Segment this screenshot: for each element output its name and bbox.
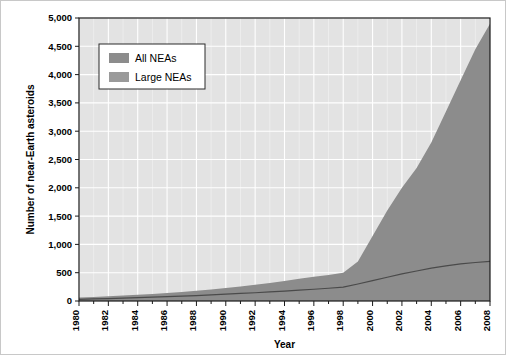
- y-tick-label: 1,500: [48, 211, 72, 222]
- legend-swatch: [109, 72, 129, 82]
- y-tick-label: 3,000: [48, 126, 72, 137]
- legend-label: All NEAs: [135, 52, 176, 64]
- x-tick-label: 1980: [70, 310, 81, 331]
- y-axis-ticks: 05001,0001,5002,0002,5003,0003,5004,0004…: [48, 12, 79, 306]
- x-tick-label: 1986: [158, 310, 169, 331]
- chart-figure: 05001,0001,5002,0002,5003,0003,5004,0004…: [0, 0, 506, 355]
- y-tick-label: 1,000: [48, 239, 72, 250]
- x-tick-label: 2004: [422, 309, 433, 331]
- asteroid-discovery-area-chart: 05001,0001,5002,0002,5003,0003,5004,0004…: [1, 1, 506, 355]
- y-tick-label: 4,000: [48, 69, 72, 80]
- y-tick-label: 2,000: [48, 182, 72, 193]
- y-axis-title: Number of near-Earth asteroids: [25, 84, 36, 234]
- y-tick-label: 5,000: [48, 12, 72, 23]
- x-tick-label: 2006: [452, 310, 463, 331]
- x-tick-label: 1996: [305, 310, 316, 331]
- legend-swatch: [109, 53, 129, 63]
- y-tick-label: 500: [56, 267, 72, 278]
- chart-legend: All NEAsLarge NEAs: [99, 44, 205, 89]
- y-tick-label: 4,500: [48, 41, 72, 52]
- y-tick-label: 2,500: [48, 154, 72, 165]
- x-tick-label: 1982: [99, 310, 110, 331]
- x-tick-label: 1994: [276, 309, 287, 331]
- y-tick-label: 0: [67, 295, 72, 306]
- x-axis-ticks: 1980198219841986198819901992199419961998…: [70, 301, 492, 331]
- x-tick-label: 1990: [217, 310, 228, 331]
- x-tick-label: 1988: [187, 310, 198, 331]
- x-tick-label: 2000: [364, 310, 375, 331]
- legend-label: Large NEAs: [135, 71, 192, 83]
- x-axis-title: Year: [274, 339, 295, 350]
- x-tick-label: 1992: [246, 310, 257, 331]
- y-tick-label: 3,500: [48, 97, 72, 108]
- x-tick-label: 2008: [481, 310, 492, 331]
- x-tick-label: 2002: [393, 310, 404, 331]
- x-tick-label: 1984: [129, 309, 140, 331]
- x-tick-label: 1998: [334, 310, 345, 331]
